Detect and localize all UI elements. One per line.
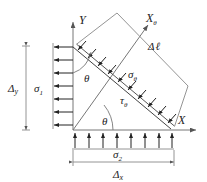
- sigma-theta-sub: θ: [133, 75, 137, 83]
- lower-theta-label: θ: [102, 115, 108, 127]
- diagram-canvas: Y X Xθ Δℓ Δy Δx σ1 σ2 σθ τθ θ θ: [0, 0, 207, 182]
- stress-diagram: Y X Xθ Δℓ Δy Δx σ1 σ2 σθ τθ θ θ: [0, 0, 207, 182]
- sigma-1-label: σ1: [34, 82, 43, 97]
- rotated-x-axis-label: Xθ: [145, 11, 157, 27]
- sigma-theta-arrow: [118, 73, 126, 82]
- delta-x-dimension: [73, 150, 174, 166]
- delta-x-label: Δx: [112, 168, 123, 182]
- delta-x-symbol: Δ: [112, 168, 119, 180]
- x-axis-label: X: [177, 113, 186, 127]
- sigma-theta-arrow: [168, 114, 176, 123]
- y-axis-label: Y: [79, 13, 87, 27]
- sigma-theta-arrow: [108, 65, 116, 74]
- sigma-theta-label: σθ: [128, 68, 137, 83]
- sigma2-arrow-group: [75, 133, 172, 148]
- rotated-x-axis-label-sub: θ: [153, 19, 157, 27]
- delta-l-sub: ℓ: [155, 40, 160, 52]
- sigma1-arrow-group: [54, 47, 73, 125]
- delta-x-sub: x: [118, 173, 123, 182]
- delta-y-label: Δy: [7, 82, 18, 96]
- delta-y-symbol: Δ: [7, 82, 14, 94]
- sigma-theta-arrow: [158, 106, 166, 115]
- sigma-1-sub: 1: [39, 89, 43, 97]
- sigma-theta-arrow-group: [78, 41, 176, 123]
- tau-theta-label: τθ: [120, 94, 128, 109]
- sigma-theta-arrow: [148, 98, 156, 107]
- sigma-2-sub: 2: [118, 155, 122, 163]
- delta-y-sub: y: [13, 87, 18, 96]
- delta-l-symbol: Δ: [147, 40, 154, 52]
- inclined-face-outer: [73, 47, 171, 129]
- tau-theta-sub: θ: [124, 101, 128, 109]
- upper-theta-label: θ: [84, 72, 90, 84]
- delta-y-dimension: [22, 46, 30, 130]
- delta-l-label: Δℓ: [147, 40, 160, 52]
- sigma-2-label: σ2: [113, 148, 122, 163]
- sigma-theta-arrow: [138, 90, 146, 99]
- sigma-theta-arrow: [98, 57, 106, 66]
